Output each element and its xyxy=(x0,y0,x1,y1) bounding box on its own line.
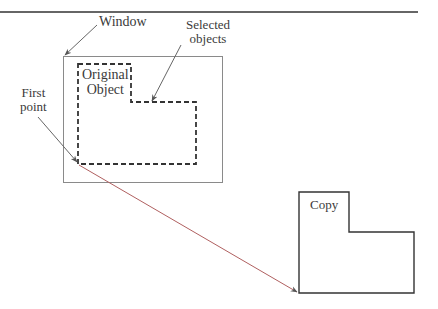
first-point-label: First point xyxy=(20,86,47,114)
copy-displacement-arrow xyxy=(79,165,297,292)
selected-objects-label: Selected objects xyxy=(186,18,230,46)
selected-objects-line2: objects xyxy=(186,32,230,46)
original-object-line1: Original xyxy=(82,67,129,82)
selected-objects-line1: Selected xyxy=(186,18,230,32)
copy-label: Copy xyxy=(310,198,338,212)
copy-label-text: Copy xyxy=(310,197,338,212)
original-object-label: Original Object xyxy=(82,67,129,97)
first-point-line2: point xyxy=(20,100,47,114)
window-arrow xyxy=(65,25,97,55)
window-label-text: Window xyxy=(99,14,147,29)
window-label: Window xyxy=(99,15,147,29)
diagram-canvas xyxy=(0,0,438,309)
original-object-line2: Object xyxy=(82,82,129,97)
first-point-arrow xyxy=(38,117,77,162)
first-point-line1: First xyxy=(20,86,47,100)
selected-objects-arrow xyxy=(152,45,181,101)
